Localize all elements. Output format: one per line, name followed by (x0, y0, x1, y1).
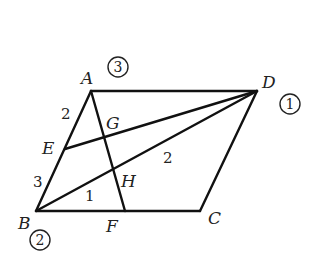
segment-AF (91, 91, 125, 211)
label-D: D (261, 72, 276, 92)
label-G: G (106, 113, 120, 133)
length-label-AE: 2 (61, 105, 71, 123)
segment-CD (200, 91, 257, 211)
label-H: H (120, 171, 137, 191)
circled-number-2: 2 (36, 232, 45, 248)
label-A: A (79, 68, 93, 88)
length-label-EB: 3 (33, 173, 43, 191)
label-B: B (17, 213, 31, 233)
length-label-HD: 2 (163, 149, 173, 167)
length-label-BH: 1 (85, 187, 95, 205)
label-F: F (105, 216, 119, 236)
circled-number-3: 3 (114, 59, 123, 75)
label-E: E (41, 138, 55, 158)
label-C: C (208, 208, 221, 228)
geometry-diagram: A D G E H B F C 2 3 2 1 3 1 2 (0, 0, 315, 258)
circled-number-1: 1 (286, 96, 295, 112)
